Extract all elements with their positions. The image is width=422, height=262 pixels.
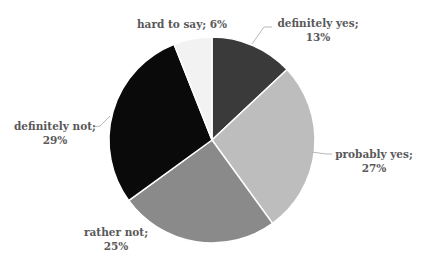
label-rather-not-value: 25%: [104, 240, 129, 252]
pie-chart: hard to say; 6% definitely yes; 13% prob…: [0, 0, 422, 262]
pie-slices: [109, 37, 315, 243]
leader-line-probably-yes: [312, 152, 332, 154]
label-definitely-not-name: definitely not;: [14, 120, 96, 133]
label-rather-not-name: rather not;: [84, 226, 148, 239]
pie-chart-canvas: hard to say; 6% definitely yes; 13% prob…: [0, 0, 422, 262]
leader-line-definitely-yes: [252, 27, 272, 44]
label-definitely-yes-value: 13%: [306, 31, 331, 43]
label-hard-to-say: hard to say; 6%: [137, 18, 227, 31]
label-definitely-yes-name: definitely yes;: [277, 17, 358, 30]
label-probably-yes-name: probably yes;: [335, 148, 413, 161]
label-probably-yes-value: 27%: [362, 162, 387, 174]
label-definitely-not-value: 29%: [43, 134, 68, 146]
